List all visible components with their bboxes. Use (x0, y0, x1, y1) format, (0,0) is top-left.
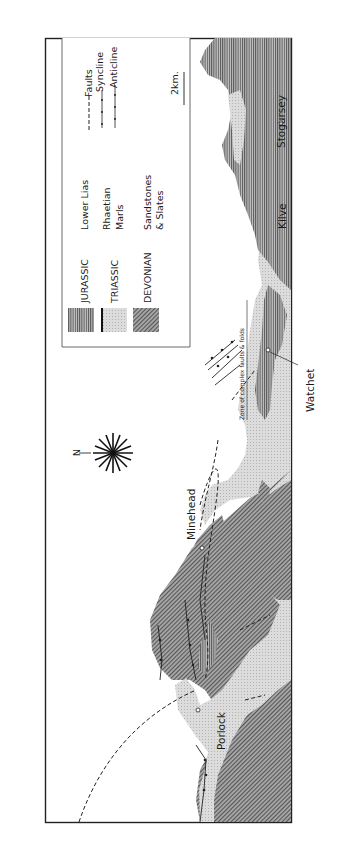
town-label-minehead: Minehead (185, 489, 197, 540)
geological-map: JURASSIC Lower Lias TRIASSIC Rhaetian Ma… (0, 0, 342, 854)
legend-swatch-triassic-rhaetian (101, 308, 103, 332)
legend-swatch-triassic (101, 308, 127, 332)
scale-label: 2km. (169, 71, 180, 95)
complex-zone-annotation: Zone of complex faults & folds (238, 328, 246, 420)
legend-period-devonian: DEVONIAN (142, 252, 153, 303)
legend-syncline: Syncline (94, 52, 105, 92)
north-label: N (71, 449, 82, 456)
legend-desc-devonian-1: Sandstones (142, 175, 153, 230)
legend-faults: Faults (83, 69, 94, 97)
legend-desc-triassic-1: Rhaetian (101, 188, 112, 231)
legend-anticline: Anticline (108, 47, 119, 88)
legend: JURASSIC Lower Lias TRIASSIC Rhaetian Ma… (62, 38, 190, 347)
legend-swatch-devonian (133, 308, 159, 332)
town-label-kilve: Kilve (276, 204, 288, 229)
town-label-porlock: Porlock (215, 711, 227, 750)
legend-desc-jurassic: Lower Lias (79, 180, 90, 230)
legend-swatch-jurassic (68, 308, 94, 332)
town-label-stogursey: Stogursey (275, 95, 287, 148)
legend-desc-triassic-2: Marls (114, 204, 125, 230)
legend-desc-devonian-2: & Slates (154, 191, 165, 230)
town-label-watchet: Watchet (304, 369, 316, 412)
legend-period-triassic: TRIASSIC (109, 259, 120, 304)
legend-period-jurassic: JURASSIC (79, 259, 90, 304)
